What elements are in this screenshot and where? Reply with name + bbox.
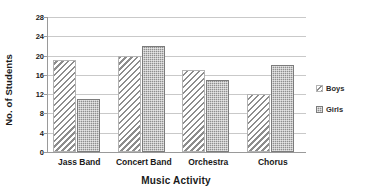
y-axis-tick-label: 4 xyxy=(24,129,44,138)
y-axis-tick-label: 16 xyxy=(24,71,44,80)
y-axis-title: No. of Students xyxy=(2,38,16,142)
y-axis-tick-label: 28 xyxy=(24,13,44,22)
legend-item-girls[interactable]: Girls xyxy=(316,103,364,115)
bar-boys[interactable] xyxy=(118,56,141,152)
plot-area xyxy=(47,17,306,152)
x-axis-tick-label: Concert Band xyxy=(112,156,177,168)
y-axis-tick-label: 24 xyxy=(24,32,44,41)
bar-girls[interactable] xyxy=(77,99,100,152)
y-axis-tick-label: 0 xyxy=(24,148,44,157)
bar-girls[interactable] xyxy=(142,46,165,152)
y-axis-tick-mark xyxy=(44,152,48,153)
bar-group xyxy=(113,17,178,152)
legend-label: Boys xyxy=(326,84,344,93)
bar-group xyxy=(48,17,113,152)
bar-boys[interactable] xyxy=(247,94,270,152)
bar-group xyxy=(242,17,307,152)
bar-chart: No. of Students 2824201612840 Jass BandC… xyxy=(0,0,365,196)
y-axis-tick-label: 12 xyxy=(24,90,44,99)
x-axis-tick-labels: Jass BandConcert BandOrchestraChorus xyxy=(47,156,305,170)
bar-boys[interactable] xyxy=(182,70,205,152)
bar-girls[interactable] xyxy=(206,80,229,152)
x-axis-tick-label: Orchestra xyxy=(176,156,241,168)
bars-layer xyxy=(48,17,306,152)
x-axis-title: Music Activity xyxy=(47,174,305,187)
chart-legend: BoysGirls xyxy=(316,82,364,124)
y-axis-tick-label: 20 xyxy=(24,52,44,61)
bar-group xyxy=(177,17,242,152)
legend-item-boys[interactable]: Boys xyxy=(316,82,364,94)
legend-label: Girls xyxy=(326,105,343,114)
x-axis-tick-label: Jass Band xyxy=(47,156,112,168)
dotted-fill-swatch xyxy=(316,106,323,113)
gridline xyxy=(48,152,306,153)
y-axis-tick-label: 8 xyxy=(24,109,44,118)
bar-girls[interactable] xyxy=(271,65,294,152)
diagonal-hatch-swatch xyxy=(316,85,323,92)
y-axis-tick-labels: 2824201612840 xyxy=(24,12,44,158)
bar-boys[interactable] xyxy=(53,60,76,152)
x-axis-tick-label: Chorus xyxy=(241,156,306,168)
